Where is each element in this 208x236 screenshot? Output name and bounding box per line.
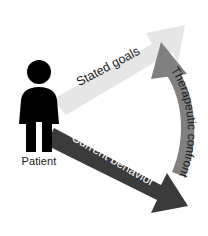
person-head-icon xyxy=(27,60,51,84)
patient-label: Patient xyxy=(0,155,78,167)
diagram-canvas: Stated goals Current behavior Therapeuti… xyxy=(0,0,208,236)
arrow-current-behavior xyxy=(46,128,188,213)
diagram-svg: Stated goals Current behavior Therapeuti… xyxy=(0,0,208,236)
current-behavior-arrow-shape xyxy=(46,128,188,213)
